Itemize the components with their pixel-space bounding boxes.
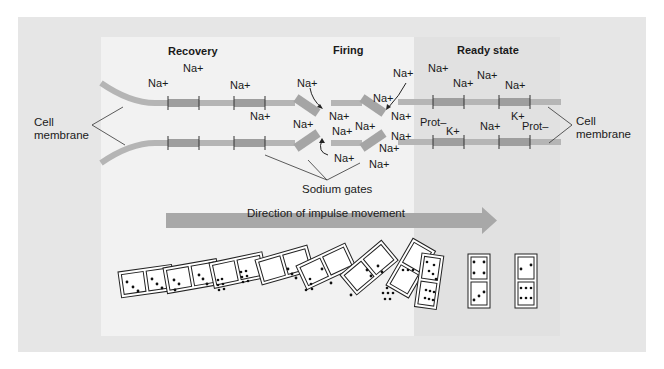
cell-membrane-label-right: Cell membrane xyxy=(576,115,631,141)
ion-label: Na+ xyxy=(332,125,353,137)
ion-label: Na+ xyxy=(393,67,414,79)
cell-membrane-right-line2: membrane xyxy=(576,128,631,141)
ion-label: Na+ xyxy=(379,142,400,154)
cell-membrane-right-line1: Cell xyxy=(576,115,631,128)
ion-label: Na+ xyxy=(148,77,169,89)
ion-label: Na+ xyxy=(297,77,318,89)
ion-label: Na+ xyxy=(477,69,498,81)
ion-label: Na+ xyxy=(183,62,204,74)
cell-membrane-top-left xyxy=(101,83,295,163)
ion-label: K+ xyxy=(446,125,460,137)
cell-membrane-left-line1: Cell xyxy=(34,116,89,129)
ion-label: Na+ xyxy=(505,79,526,91)
sodium-gates-label: Sodium gates xyxy=(302,183,372,195)
ion-label: Na+ xyxy=(480,120,501,132)
ion-label: Na+ xyxy=(369,158,390,170)
ion-label: Na+ xyxy=(230,79,251,91)
ion-label: Prot– xyxy=(522,120,548,132)
cell-membrane-left-line2: membrane xyxy=(34,129,89,142)
direction-label: Direction of impulse movement xyxy=(166,206,486,221)
ion-label: Na+ xyxy=(355,120,376,132)
ion-label: Na+ xyxy=(373,92,394,104)
ion-label: Na+ xyxy=(250,110,271,122)
ion-label: Na+ xyxy=(391,130,412,142)
ion-label: Na+ xyxy=(453,77,474,89)
ion-label: Na+ xyxy=(428,62,449,74)
ion-label: Na+ xyxy=(329,110,350,122)
cell-membrane-label-left: Cell membrane xyxy=(34,116,89,142)
ion-label: Na+ xyxy=(391,110,412,122)
ion-label: Na+ xyxy=(334,152,355,164)
ion-label: Prot– xyxy=(420,116,446,128)
ion-label: Na+ xyxy=(293,118,314,130)
